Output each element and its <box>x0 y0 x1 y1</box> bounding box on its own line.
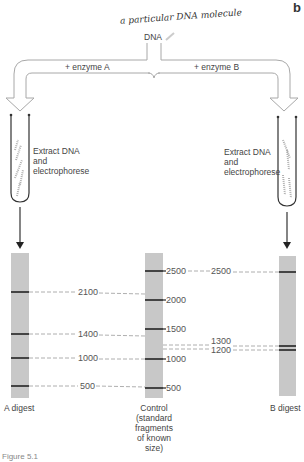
dna-smear-icon <box>166 33 174 40</box>
control-500-label: 500 <box>166 383 181 393</box>
down-arrow-right-icon <box>283 212 291 249</box>
control-label-line-4: of known <box>126 433 182 443</box>
corner-letter: b <box>293 0 301 15</box>
step-left-line-2: and <box>33 156 89 166</box>
a-500-label: 500 <box>80 381 95 391</box>
control-2500-label: 2500 <box>166 266 186 276</box>
step-left-line-3: electrophorese <box>33 166 89 176</box>
a-digest-label: A digest <box>4 403 34 413</box>
b-1200-label: 1200 <box>211 345 231 355</box>
control-label-line-2: (standard <box>126 413 182 423</box>
step-right-line-3: electrophorese <box>224 167 280 177</box>
control-2000-label: 2000 <box>166 295 186 305</box>
down-arrow-left-icon <box>16 207 24 249</box>
gel-lane-b-digest <box>279 256 296 396</box>
gel-lane-a-digest <box>11 253 29 398</box>
dna-source-label: DNA <box>144 32 162 42</box>
branch-right-label: + enzyme B <box>194 62 239 72</box>
branching-arrow-icon <box>6 43 298 111</box>
a-2100-label: 2100 <box>78 287 98 297</box>
b-2500-label: 2500 <box>211 266 231 276</box>
step-left-text: Extract DNA and electrophorese <box>33 146 89 176</box>
control-1000-label: 1000 <box>166 354 186 364</box>
step-right-text: Extract DNA and electrophorese <box>224 147 280 177</box>
branch-left-label: + enzyme A <box>65 62 110 72</box>
control-1500-label: 1500 <box>166 324 186 334</box>
a-1400-label: 1400 <box>78 329 98 339</box>
gel-lane-control <box>145 253 163 398</box>
handwritten-note: a particular DNA molecule <box>120 7 242 25</box>
control-label-line-5: size) <box>126 443 182 453</box>
control-label-line-3: fragments <box>126 423 182 433</box>
step-right-line-1: Extract DNA <box>224 147 280 157</box>
control-label: Control (standard fragments of known siz… <box>126 403 182 453</box>
b-digest-label: B digest <box>270 403 301 413</box>
step-right-line-2: and <box>224 157 280 167</box>
a-connectors <box>29 292 145 387</box>
figure-caption: Figure 5.1 <box>2 452 38 462</box>
test-tube-left-icon <box>10 114 31 202</box>
control-label-line-1: Control <box>126 403 182 413</box>
a-1000-label: 1000 <box>78 353 98 363</box>
step-left-line-1: Extract DNA <box>33 146 89 156</box>
brace-icon <box>148 73 160 78</box>
